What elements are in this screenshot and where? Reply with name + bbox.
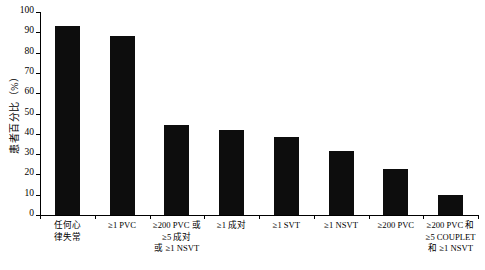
- y-tick-mark: [36, 73, 40, 74]
- x-tick-mark: [204, 215, 205, 219]
- x-tick-mark: [95, 215, 96, 219]
- y-tick-mark: [36, 134, 40, 135]
- y-tick-label: 70: [25, 66, 35, 76]
- y-tick-mark: [36, 12, 40, 13]
- y-tick-label: 40: [25, 127, 35, 137]
- bar[interactable]: [219, 130, 244, 215]
- y-tick-label: 50: [25, 107, 35, 117]
- y-tick-label: 20: [25, 167, 35, 177]
- x-tick-mark: [40, 215, 41, 219]
- x-tick-mark: [259, 215, 260, 219]
- plot-area: 1009080706050403020100: [40, 12, 478, 215]
- y-tick-mark: [36, 195, 40, 196]
- y-axis-title: 患者百分比（%）: [6, 53, 21, 173]
- x-tick-mark: [314, 215, 315, 219]
- x-tick-mark: [369, 215, 370, 219]
- y-tick-mark: [36, 174, 40, 175]
- y-tick-label: 90: [25, 25, 35, 35]
- y-tick-mark: [36, 154, 40, 155]
- x-axis-labels: 任何心 律失常≥1 PVC≥200 PVC 或 ≥5 成对 或 ≥1 NSVT≥…: [40, 220, 478, 270]
- bar[interactable]: [55, 26, 80, 215]
- x-tick-mark: [150, 215, 151, 219]
- bar[interactable]: [274, 137, 299, 215]
- y-tick-mark: [36, 93, 40, 94]
- y-tick-mark: [36, 53, 40, 54]
- y-tick-label: 0: [29, 208, 34, 218]
- x-axis-category-label: ≥200 PVC 和 ≥5 COUPLET 和 ≥1 NSVT: [417, 220, 484, 255]
- y-tick-label: 100: [20, 5, 34, 15]
- y-tick-label: 80: [25, 46, 35, 56]
- x-tick-mark: [478, 215, 479, 219]
- bar[interactable]: [329, 151, 354, 215]
- y-tick-label: 30: [25, 147, 35, 157]
- y-tick-label: 60: [25, 86, 35, 96]
- bar[interactable]: [383, 169, 408, 215]
- y-tick-mark: [36, 114, 40, 115]
- y-tick-mark: [36, 32, 40, 33]
- bar[interactable]: [110, 36, 135, 215]
- bar[interactable]: [164, 125, 189, 215]
- y-tick-label: 10: [25, 188, 35, 198]
- bar-chart-figure: 患者百分比（%） 1009080706050403020100 任何心 律失常≥…: [0, 0, 485, 270]
- bar[interactable]: [438, 195, 463, 215]
- x-tick-mark: [423, 215, 424, 219]
